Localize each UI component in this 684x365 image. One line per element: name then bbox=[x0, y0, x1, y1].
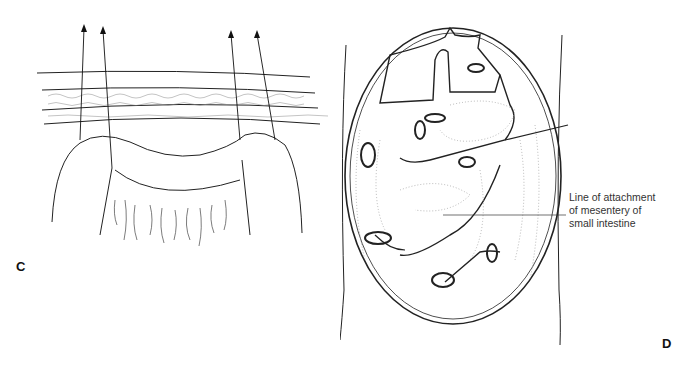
panel-label-c: C bbox=[16, 259, 25, 274]
annotation-line-1: Line of attachment bbox=[569, 191, 684, 204]
mesentery-annotation: Line of attachment of mesentery of small… bbox=[569, 191, 684, 230]
panel-d bbox=[340, 0, 684, 365]
annotation-line-3: small intestine bbox=[569, 217, 684, 230]
peritoneal-cavity-illustration bbox=[340, 0, 684, 365]
panel-label-d: D bbox=[662, 336, 671, 351]
panel-c bbox=[0, 0, 340, 365]
annotation-line-2: of mesentery of bbox=[569, 204, 684, 217]
abdominal-wall-suture-illustration bbox=[0, 0, 340, 365]
